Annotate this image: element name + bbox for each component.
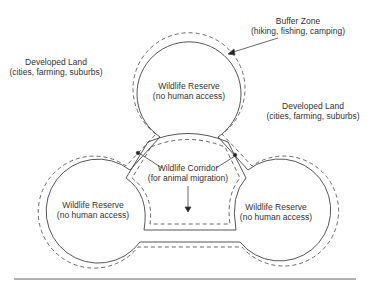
corridor-arrow-icon: [185, 207, 191, 212]
reserve-right-label: Wildlife Reserve (no human access): [240, 202, 312, 222]
corridor-label: Wildlife Corridor (for animal migration): [148, 163, 228, 183]
reserve-diagram: [0, 0, 372, 286]
developed-land-left-label: Developed Land (cities, farming, suburbs…: [9, 57, 102, 77]
buffer-leader-line: [230, 38, 278, 53]
corridor-dot-right-icon: [233, 153, 237, 157]
reserve-left-label: Wildlife Reserve (no human access): [57, 200, 129, 220]
corridor-dot-left-icon: [136, 151, 140, 155]
reserve-top-label: Wildlife Reserve (no human access): [153, 81, 225, 101]
developed-land-right-label: Developed Land (cities, farming, suburbs…: [266, 101, 359, 121]
buffer-zone-label: Buffer Zone (hiking, fishing, camping): [251, 16, 345, 36]
